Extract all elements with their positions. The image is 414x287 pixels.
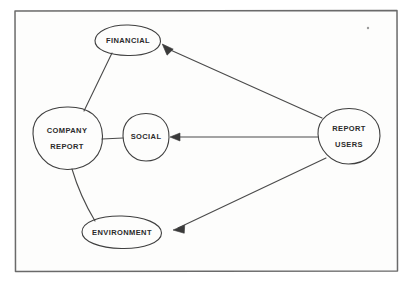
stray-speck-mark — [367, 27, 369, 29]
node-report-users-label-line1: REPORT — [332, 124, 366, 133]
hand-drawn-diagram-canvas: FINANCIAL COMPANY REPORT SOCIAL ENVIRONM… — [0, 0, 414, 287]
node-financial-label: FINANCIAL — [106, 36, 150, 45]
node-company-report-label-line1: COMPANY — [47, 126, 88, 135]
node-report-users-label-line2: USERS — [335, 140, 363, 149]
node-social-label: SOCIAL — [131, 132, 162, 141]
diagram-svg: FINANCIAL COMPANY REPORT SOCIAL ENVIRONM… — [0, 0, 414, 287]
node-company-report-label-line2: REPORT — [50, 142, 84, 151]
node-environment-label: ENVIRONMENT — [92, 228, 152, 237]
